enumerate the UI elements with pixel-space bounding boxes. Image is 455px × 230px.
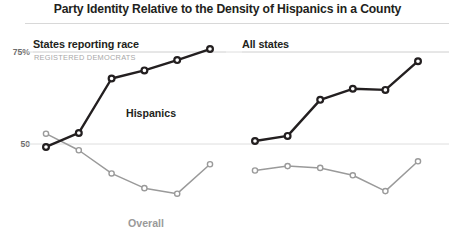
data-point[interactable] xyxy=(285,133,291,139)
series-right-hispanics xyxy=(252,58,421,144)
gridlines xyxy=(25,52,449,144)
data-point[interactable] xyxy=(415,58,421,64)
data-point[interactable] xyxy=(350,173,355,178)
series-left-hispanics xyxy=(43,46,213,150)
data-point[interactable] xyxy=(109,76,115,82)
data-point[interactable] xyxy=(109,171,114,176)
data-point[interactable] xyxy=(317,97,323,103)
series-line xyxy=(46,49,210,147)
data-point[interactable] xyxy=(207,46,213,52)
data-point[interactable] xyxy=(43,144,49,150)
data-point[interactable] xyxy=(174,57,180,63)
chart-plot-area xyxy=(0,0,455,230)
series-right-overall xyxy=(252,159,420,194)
data-point[interactable] xyxy=(383,189,388,194)
series-layer xyxy=(43,46,421,196)
data-point[interactable] xyxy=(43,131,48,136)
chart-root: Party Identity Relative to the Density o… xyxy=(0,0,455,230)
data-point[interactable] xyxy=(285,163,290,168)
series-line xyxy=(255,61,418,141)
data-point[interactable] xyxy=(76,148,81,153)
data-point[interactable] xyxy=(252,168,257,173)
data-point[interactable] xyxy=(142,186,147,191)
data-point[interactable] xyxy=(252,138,258,144)
series-label-hispanics: Hispanics xyxy=(126,107,176,119)
series-line xyxy=(46,134,210,194)
data-point[interactable] xyxy=(318,165,323,170)
data-point[interactable] xyxy=(383,87,389,93)
data-point[interactable] xyxy=(415,159,420,164)
data-point[interactable] xyxy=(207,162,212,167)
data-point[interactable] xyxy=(142,68,148,74)
series-line xyxy=(255,161,418,191)
data-point[interactable] xyxy=(76,130,82,136)
series-left-overall xyxy=(43,131,212,196)
data-point[interactable] xyxy=(175,191,180,196)
series-label-overall: Overall xyxy=(128,217,164,229)
data-point[interactable] xyxy=(350,86,356,92)
